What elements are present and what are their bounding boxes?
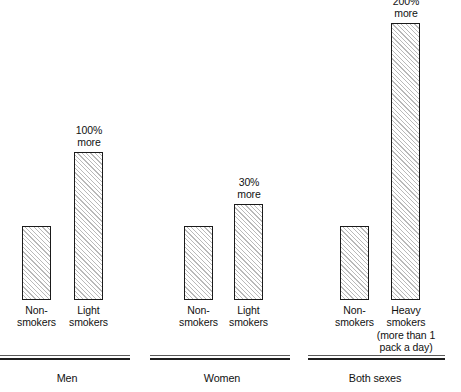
separator-thin-line bbox=[308, 355, 445, 356]
value-label-line-2: more bbox=[77, 136, 101, 148]
category-label-line-1: Heavy bbox=[368, 304, 444, 316]
category-label-line-2: smokers bbox=[368, 316, 444, 328]
value-label-line-1: 200% bbox=[393, 0, 419, 7]
separator-thin-line bbox=[0, 355, 130, 356]
group-separator-women bbox=[150, 355, 290, 360]
bar-men-non-smokers bbox=[22, 226, 51, 300]
bar-women-light-smokers bbox=[234, 204, 263, 300]
group-separator-men bbox=[0, 355, 130, 360]
value-label-men-light-smokers: 100% more bbox=[64, 124, 114, 149]
value-label-both-sexes-heavy-smokers: 200% more bbox=[381, 0, 431, 20]
value-label-line-2: more bbox=[237, 188, 261, 200]
bar-women-non-smokers bbox=[184, 226, 213, 300]
bar-men-light-smokers bbox=[74, 152, 103, 300]
bar-both-sexes-heavy-smokers bbox=[391, 23, 420, 300]
category-label-line-3: (more than 1 bbox=[368, 329, 444, 341]
category-label-both-sexes-heavy-smokers: Heavy smokers (more than 1 pack a day) bbox=[368, 304, 444, 354]
value-label-line-1: 100% bbox=[76, 124, 102, 136]
category-label-line-2: smokers bbox=[217, 316, 280, 328]
separator-thick-line bbox=[0, 358, 130, 360]
category-label-women-light-smokers: Light smokers bbox=[217, 304, 280, 329]
group-separator-both-sexes bbox=[308, 355, 445, 360]
value-label-line-1: 30% bbox=[239, 176, 260, 188]
separator-thick-line bbox=[308, 358, 445, 360]
category-label-line-4: pack a day) bbox=[368, 341, 444, 353]
value-label-line-2: more bbox=[394, 7, 418, 19]
smoking-risk-bar-chart: 100% more Non- smokers Light smokers Men… bbox=[0, 0, 461, 392]
separator-thick-line bbox=[150, 358, 290, 360]
bar-both-sexes-non-smokers bbox=[340, 226, 369, 300]
value-label-women-light-smokers: 30% more bbox=[224, 176, 274, 201]
category-label-line-2: smokers bbox=[57, 316, 120, 328]
category-label-line-1: Light bbox=[57, 304, 120, 316]
group-caption-women: Women bbox=[172, 372, 272, 385]
group-caption-men: Men bbox=[17, 372, 117, 385]
group-caption-both-sexes: Both sexes bbox=[325, 372, 425, 385]
category-label-line-1: Light bbox=[217, 304, 280, 316]
separator-thin-line bbox=[150, 355, 290, 356]
category-label-men-light-smokers: Light smokers bbox=[57, 304, 120, 329]
